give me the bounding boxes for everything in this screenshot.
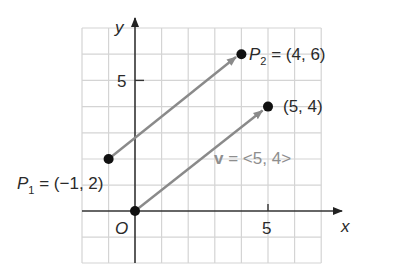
coordinate-plane-diagram: y x O 5 5 P1 = (−1, 2) P2 = (4, 6) (5, 4… (0, 0, 400, 278)
vector-p1-p2 (109, 57, 236, 159)
y-axis-label: y (114, 18, 125, 37)
diagram-canvas: y x O 5 5 P1 = (−1, 2) P2 = (4, 6) (5, 4… (0, 0, 400, 278)
point-5-4 (263, 102, 273, 112)
label-5-4: (5, 4) (283, 97, 323, 116)
label-p1: P1 = (−1, 2) (17, 174, 103, 196)
x-axis-label: x (340, 217, 350, 236)
x-tick-label: 5 (262, 219, 271, 238)
label-vector-v: v = <5, 4> (214, 149, 291, 168)
point-p2 (236, 49, 246, 59)
y-tick-label: 5 (117, 72, 126, 91)
point-p1 (104, 154, 114, 164)
label-p2: P2 = (4, 6) (249, 45, 326, 67)
point-origin (130, 206, 140, 216)
origin-label: O (115, 219, 128, 238)
